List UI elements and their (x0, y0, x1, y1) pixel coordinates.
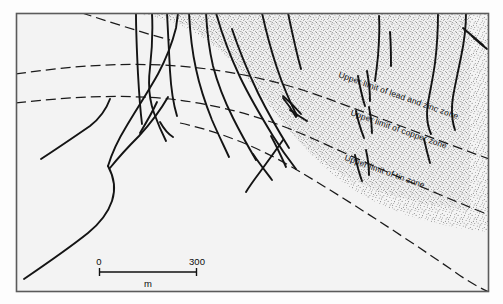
scale-unit-label: m (144, 278, 152, 289)
cross-section-diagram: Upper limit of lead and zinc zone Upper … (0, 0, 503, 304)
scale-end-label: 300 (189, 256, 205, 267)
vein (390, 32, 391, 66)
scale-start-label: 0 (96, 256, 101, 267)
figure-root: Upper limit of lead and zinc zone Upper … (0, 0, 503, 304)
